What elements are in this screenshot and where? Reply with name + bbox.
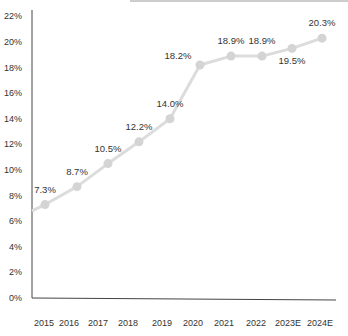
data-label: 8.7% — [66, 166, 88, 177]
data-point-marker — [135, 137, 144, 146]
data-label: 18.2% — [165, 50, 192, 61]
data-point-marker — [258, 52, 267, 61]
data-label: 18.9% — [218, 35, 245, 46]
y-tick-label: 16% — [4, 88, 22, 98]
y-tick-label: 6% — [9, 216, 22, 226]
data-point-marker — [227, 52, 236, 61]
y-tick-label: 22% — [4, 11, 22, 21]
data-point-marker — [73, 182, 82, 191]
data-label: 12.2% — [126, 121, 153, 132]
data-label: 10.5% — [95, 143, 122, 154]
data-label: 7.3% — [34, 184, 56, 195]
y-tick-label: 20% — [4, 37, 22, 47]
y-tick-label: 10% — [4, 165, 22, 175]
data-label: 19.5% — [279, 55, 306, 66]
y-axis-ticks: 0%2%4%6%8%10%12%14%16%18%20%22% — [4, 11, 22, 303]
data-label: 14.0% — [157, 98, 184, 109]
y-tick-label: 2% — [9, 267, 22, 277]
x-tick-label: 2019 — [152, 318, 172, 328]
x-axis — [32, 298, 336, 300]
data-point-marker — [196, 61, 205, 70]
y-tick-label: 12% — [4, 139, 22, 149]
data-label: 20.3% — [309, 17, 336, 28]
x-tick-label: 2017 — [88, 318, 108, 328]
data-labels: 7.3%8.7%10.5%12.2%14.0%18.2%18.9%18.9%19… — [34, 17, 336, 194]
y-tick-label: 4% — [9, 242, 22, 252]
x-axis-ticks: 201520162017201820192020202120222023E202… — [34, 318, 333, 328]
y-tick-label: 18% — [4, 63, 22, 73]
data-point-marker — [104, 159, 113, 168]
data-point-marker — [166, 114, 175, 123]
x-tick-label: 2020 — [183, 318, 203, 328]
x-tick-label: 2022 — [246, 318, 266, 328]
x-tick-label: 2018 — [118, 318, 138, 328]
y-tick-label: 14% — [4, 114, 22, 124]
x-tick-label: 2015 — [34, 318, 54, 328]
line-chart: 0%2%4%6%8%10%12%14%16%18%20%22% 7.3%8.7%… — [0, 0, 348, 336]
x-tick-label: 2024E — [307, 318, 333, 328]
x-tick-label: 2016 — [59, 318, 79, 328]
data-label: 18.9% — [249, 35, 276, 46]
y-tick-label: 0% — [9, 293, 22, 303]
x-tick-label: 2023E — [275, 318, 301, 328]
data-point-marker — [318, 34, 327, 43]
data-point-marker — [288, 44, 297, 53]
y-tick-label: 8% — [9, 191, 22, 201]
data-point-marker — [41, 200, 50, 209]
x-tick-label: 2021 — [214, 318, 234, 328]
